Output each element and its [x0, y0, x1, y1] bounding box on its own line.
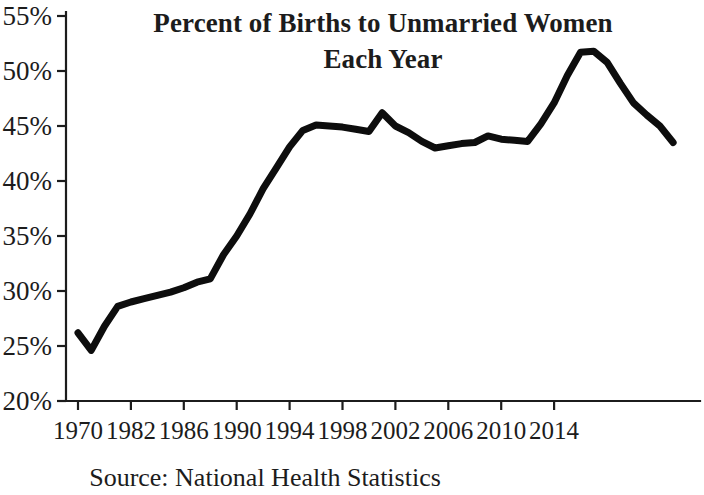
x-tick-label: 2006 [423, 417, 473, 444]
x-tick-label: 1986 [159, 417, 209, 444]
x-tick-label: 2010 [476, 417, 526, 444]
y-tick-label: 55% [3, 1, 53, 31]
y-tick-label: 40% [3, 166, 53, 196]
chart-container: Percent of Births to Unmarried Women Eac… [0, 0, 704, 495]
x-tick-label: 1990 [212, 417, 262, 444]
y-tick-label: 30% [3, 276, 53, 306]
y-tick-label: 25% [3, 331, 53, 361]
chart-title-line-2: Each Year [323, 44, 442, 74]
data-series-line [78, 51, 673, 350]
source-caption: Source: National Health Statistics [89, 463, 441, 492]
y-tick-label: 35% [3, 221, 53, 251]
y-tick-label: 45% [3, 111, 53, 141]
line-chart: Percent of Births to Unmarried Women Eac… [0, 0, 704, 495]
y-tick-label: 20% [3, 386, 53, 416]
x-tick-label: 2002 [370, 417, 420, 444]
x-tick-label: 1982 [106, 417, 156, 444]
x-tick-label: 1994 [265, 417, 316, 444]
x-tick-label: 1998 [318, 417, 368, 444]
x-tick-label: 1970 [53, 417, 103, 444]
y-tick-label: 50% [3, 56, 53, 86]
x-axis-ticks: 1970198219861990199419982002200620102014 [53, 401, 580, 444]
chart-title-line-1: Percent of Births to Unmarried Women [153, 8, 612, 38]
x-tick-label: 2014 [529, 417, 580, 444]
y-axis-ticks: 55%50%45%40%35%30%25%20% [3, 1, 67, 416]
